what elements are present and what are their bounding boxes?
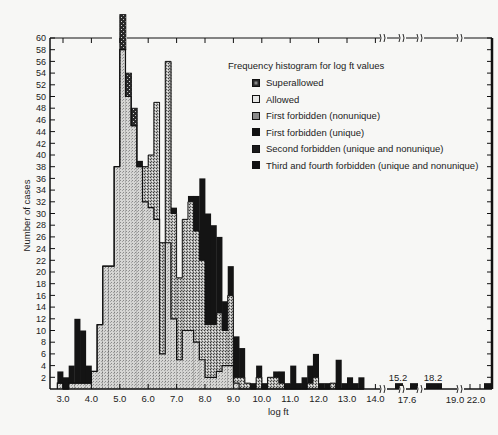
svg-text:38: 38 [36, 162, 46, 172]
swatch-second-forbidden-icon [252, 145, 260, 153]
legend: Frequency histogram for log ft values Su… [228, 60, 478, 176]
legend-item-first-forbidden-nonunique: First forbidden (nonunique) [252, 110, 478, 121]
svg-text:16: 16 [36, 291, 46, 301]
swatch-ff-nonunique-icon [252, 112, 260, 120]
svg-text:56: 56 [36, 57, 46, 67]
svg-text:32: 32 [36, 197, 46, 207]
svg-text:22: 22 [36, 256, 46, 266]
svg-text:12: 12 [36, 314, 46, 324]
svg-text:14: 14 [36, 302, 46, 312]
svg-text:10.0: 10.0 [253, 393, 272, 404]
svg-text:17.6: 17.6 [398, 394, 417, 405]
svg-text:9.0: 9.0 [227, 393, 240, 404]
legend-item-superallowed: Superallowed [252, 77, 478, 88]
svg-text:54: 54 [36, 68, 46, 78]
svg-text:28: 28 [36, 220, 46, 230]
svg-text:18.2: 18.2 [424, 372, 443, 383]
legend-item-first-forbidden-unique: First forbidden (unique) [252, 127, 478, 138]
legend-label: First forbidden (nonunique) [266, 110, 380, 121]
y-axis-title: Number of cases [21, 176, 32, 256]
svg-text:14.0: 14.0 [366, 393, 385, 404]
svg-text:7.0: 7.0 [170, 393, 183, 404]
svg-text:8: 8 [41, 337, 46, 347]
svg-text:4: 4 [41, 361, 46, 371]
svg-text:6.0: 6.0 [142, 393, 155, 404]
legend-label: Superallowed [266, 77, 324, 88]
svg-text:42: 42 [36, 139, 46, 149]
swatch-allowed-icon [252, 95, 260, 103]
legend-label: Second forbidden (unique and nonunique) [266, 143, 443, 154]
svg-text:11.0: 11.0 [281, 393, 299, 404]
svg-text:6: 6 [41, 349, 46, 359]
svg-text:44: 44 [36, 127, 46, 137]
svg-text:36: 36 [36, 174, 46, 184]
legend-label: Allowed [266, 94, 299, 105]
svg-text:50: 50 [36, 92, 46, 102]
x-axis-title-text: log ft [268, 406, 289, 417]
svg-text:2: 2 [41, 373, 46, 383]
svg-text:5.0: 5.0 [113, 393, 126, 404]
swatch-superallowed-icon [252, 79, 260, 87]
svg-text:3.0: 3.0 [56, 393, 69, 404]
svg-text:46: 46 [36, 115, 46, 125]
x-axis-title: log ft [268, 406, 289, 417]
legend-label: Third and fourth forbidden (unique and n… [266, 160, 478, 171]
svg-text:24: 24 [36, 244, 46, 254]
legend-item-allowed: Allowed [252, 94, 478, 105]
svg-text:15.2: 15.2 [389, 372, 408, 383]
svg-text:12.0: 12.0 [309, 393, 328, 404]
swatch-third-fourth-forbidden-icon [252, 161, 260, 169]
svg-text:13.0: 13.0 [338, 393, 357, 404]
svg-text:20: 20 [36, 267, 46, 277]
svg-text:58: 58 [36, 45, 46, 55]
svg-text:22.0: 22.0 [467, 394, 486, 405]
svg-text:48: 48 [36, 103, 46, 113]
svg-text:8.0: 8.0 [198, 393, 211, 404]
svg-text:18: 18 [36, 279, 46, 289]
svg-text:52: 52 [36, 80, 46, 90]
swatch-ff-unique-icon [252, 128, 260, 136]
svg-text:40: 40 [36, 150, 46, 160]
legend-item-third-fourth-forbidden: Third and fourth forbidden (unique and n… [252, 160, 478, 171]
legend-item-second-forbidden: Second forbidden (unique and nonunique) [252, 143, 478, 154]
svg-text:34: 34 [36, 185, 46, 195]
svg-text:10: 10 [36, 326, 46, 336]
svg-text:30: 30 [36, 209, 46, 219]
legend-label: First forbidden (unique) [266, 127, 364, 138]
svg-text:4.0: 4.0 [85, 393, 98, 404]
svg-text:26: 26 [36, 232, 46, 242]
svg-text:60: 60 [36, 33, 46, 43]
svg-text:19.0: 19.0 [446, 394, 465, 405]
legend-title: Frequency histogram for log ft values [228, 60, 478, 71]
